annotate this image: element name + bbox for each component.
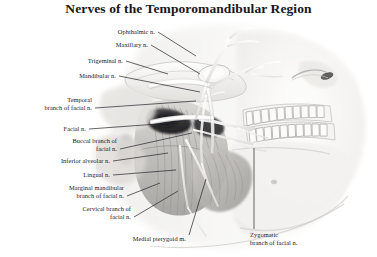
label-lingual-n: Lingual n. (0, 171, 110, 179)
label-trigeminal-n: Trigeminal n. (0, 57, 123, 65)
label-line: Temporal (0, 96, 92, 104)
anatomical-figure: Nerves of the Temporomandibular Region O… (0, 0, 377, 257)
label-facial-n: Facial n. (0, 125, 86, 133)
leader-medial-pterygoid-m (189, 179, 206, 235)
leader-buccal-branch (120, 133, 192, 149)
label-line: Lingual n. (0, 171, 110, 179)
label-line: Marginal mandibular (0, 184, 124, 192)
leader-temporal-branch (95, 101, 196, 108)
leader-marginal-mandibular (127, 183, 160, 196)
label-inferior-alveolar-n: Inferior alveolar n. (0, 157, 110, 165)
label-line: branch of facial n. (250, 239, 297, 247)
label-maxillary-n: Maxillary n. (0, 41, 148, 49)
label-line: facial n. (0, 145, 117, 153)
label-mandibular-n: Mandibular n. (0, 72, 116, 80)
label-line: Maxillary n. (0, 41, 148, 49)
label-marginal-mandibular: Marginal mandibularbranch of facial n. (0, 184, 124, 199)
label-line: Trigeminal n. (0, 57, 123, 65)
label-temporal-branch: Temporalbranch of facial n. (0, 96, 92, 111)
label-line: Mandibular n. (0, 72, 116, 80)
leader-cervical-branch (134, 191, 178, 217)
leader-facial-n (89, 124, 158, 129)
label-buccal-branch: Buccal branch offacial n. (0, 137, 117, 152)
leader-maxillary-n (151, 45, 200, 74)
label-line: Cervical branch of (0, 205, 131, 213)
label-line: Facial n. (0, 125, 86, 133)
figure-title: Nerves of the Temporomandibular Region (0, 1, 377, 17)
label-line: Ophthalmic n. (0, 28, 155, 36)
label-line: branch of facial n. (0, 192, 124, 200)
label-ophthalmic-n: Ophthalmic n. (0, 28, 155, 36)
leader-trigeminal-n (126, 61, 168, 74)
label-zygomatic-branch: Zygomaticbranch of facial n. (250, 231, 297, 246)
label-line: branch of facial n. (0, 104, 92, 112)
leader-lingual-n (113, 170, 176, 175)
label-line: Inferior alveolar n. (0, 157, 110, 165)
label-line: Buccal branch of (0, 137, 117, 145)
label-cervical-branch: Cervical branch offacial n. (0, 205, 131, 220)
label-medial-pterygoid-m: Medial pterygoid m. (0, 235, 186, 243)
label-line: facial n. (0, 213, 131, 221)
label-line: Zygomatic (250, 231, 297, 239)
leader-inferior-alveolar-n (113, 153, 168, 161)
leader-mandibular-n (119, 76, 200, 92)
label-line: Medial pterygoid m. (0, 235, 186, 243)
